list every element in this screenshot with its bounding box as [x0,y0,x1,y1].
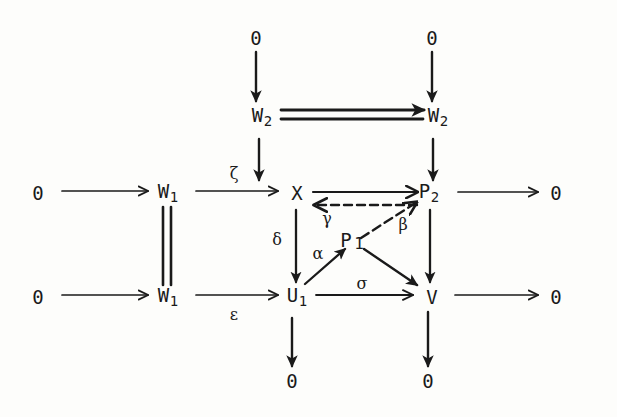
node-zero-bottom-right: 0 [422,372,433,391]
arrow-u1-to-p1 [305,249,345,284]
arrow-label-beta: β [398,217,407,233]
arrow-label-alpha: α [313,246,324,262]
node-w1-upper: W1 [158,182,178,204]
diagram-arrows [0,0,617,417]
node-u1: U1 [287,286,307,308]
arrow-label-sigma: σ [357,276,368,292]
arrow-label-delta: δ [272,232,282,248]
node-zero-row1-left: 0 [32,184,43,203]
node-zero-row2-left: 0 [32,288,43,307]
arrow-label-epsilon: ε [230,307,238,323]
arrow-p1-to-v [364,249,417,285]
node-p2: P2 [419,182,439,204]
diagram-canvas: 0 0 W2 W2 0 W1 X P2 0 P1 0 W1 U1 V 0 0 0… [0,0,617,417]
node-zero-bottom-left: 0 [286,372,297,391]
node-zero-row1-right: 0 [550,184,561,203]
arrow-label-zeta: ζ [230,166,239,182]
node-w2-left: W2 [252,106,272,128]
node-w2-right: W2 [428,106,448,128]
node-zero-row2-right: 0 [550,288,561,307]
node-w1-lower: W1 [158,286,178,308]
node-zero-top-left: 0 [250,29,261,48]
node-x: X [291,184,302,203]
node-v: V [426,288,437,307]
node-zero-top-right: 0 [426,29,437,48]
arrow-label-gamma: γ [322,211,332,227]
arrow-p1-to-p2 [361,202,417,238]
node-p1: P1 [340,231,364,252]
